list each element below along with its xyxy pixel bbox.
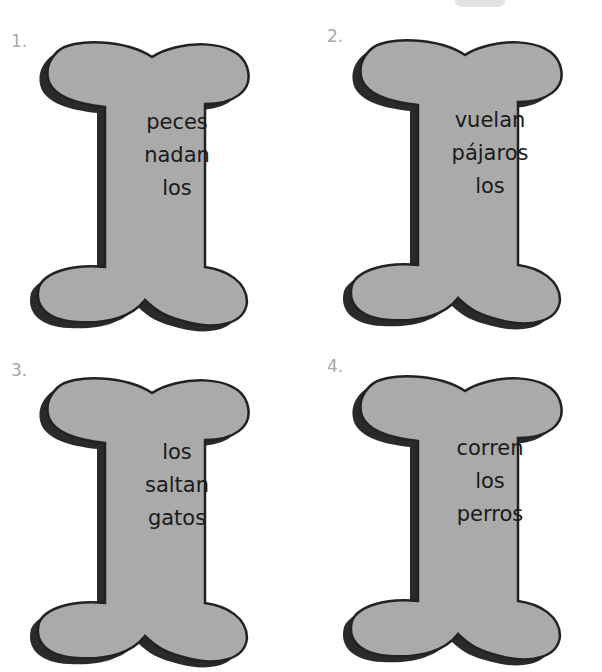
word: corren	[435, 432, 545, 465]
page-edge-mark	[455, 0, 505, 7]
bone-item-3: 3. los saltan gatos	[27, 368, 267, 668]
item-number: 1.	[11, 31, 27, 51]
word: los	[435, 170, 545, 203]
bone-item-2: 2. vuelan pájaros los	[340, 30, 580, 330]
word: los	[435, 465, 545, 498]
bone-item-1: 1. peces nadan los	[27, 32, 267, 332]
word: los	[122, 436, 232, 469]
word: peces	[122, 106, 232, 139]
word: pájaros	[435, 137, 545, 170]
word-list: corren los perros	[435, 432, 545, 531]
word: gatos	[122, 502, 232, 535]
word: vuelan	[435, 104, 545, 137]
word-list: vuelan pájaros los	[435, 104, 545, 203]
word-list: los saltan gatos	[122, 436, 232, 535]
word-list: peces nadan los	[122, 106, 232, 205]
word: los	[122, 172, 232, 205]
word: perros	[435, 498, 545, 531]
word: nadan	[122, 139, 232, 172]
item-number: 3.	[11, 360, 27, 380]
item-number: 4.	[327, 356, 343, 376]
word: saltan	[122, 469, 232, 502]
item-number: 2.	[327, 26, 343, 46]
bone-item-4: 4. corren los perros	[340, 366, 580, 666]
